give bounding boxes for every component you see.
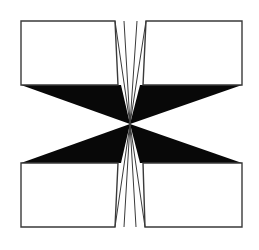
top-left-panel: [21, 21, 118, 85]
top-right-panel: [143, 21, 242, 85]
figure-canvas: [0, 0, 259, 250]
bottom-left-panel: [21, 163, 118, 227]
bottom-right-panel: [143, 163, 242, 227]
geometric-figure: [0, 0, 259, 250]
